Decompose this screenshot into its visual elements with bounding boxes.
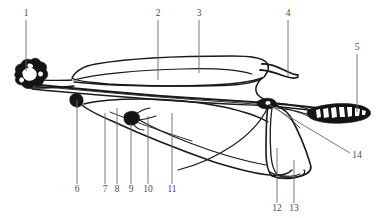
label-2: 2: [156, 8, 161, 18]
drawing-group: [15, 56, 371, 178]
label-12: 12: [272, 203, 282, 213]
label-7: 7: [103, 184, 108, 194]
anatomical-line-drawing: 1 2 3 4 5 6 7 8 9 10 11 12 13 14: [0, 0, 377, 218]
label-13: 13: [289, 203, 299, 213]
joint-to-skirt-sweep: [178, 107, 268, 170]
label-10: 10: [143, 184, 153, 194]
left-knob-inner-mark-4: [19, 78, 24, 83]
right-ovoid-marking-4: [339, 107, 345, 117]
lower-blade-outline: [82, 105, 292, 175]
label-4: 4: [286, 8, 291, 18]
left-joint-knot: [70, 94, 83, 108]
upper-blade-inner-fold: [74, 69, 252, 80]
label-3: 3: [197, 8, 202, 18]
label-14: 14: [352, 150, 362, 160]
lower-blade-inner-curve: [132, 116, 266, 165]
left-knob-inner-mark-3: [38, 72, 43, 77]
label-6: 6: [75, 184, 80, 194]
label-1: 1: [24, 8, 29, 18]
right-ovoid-marking-2: [323, 108, 329, 118]
label-8: 8: [115, 184, 120, 194]
figure-container: 1 2 3 4 5 6 7 8 9 10 11 12 13 14: [0, 0, 377, 218]
mid-joint-tail: [133, 124, 144, 130]
right-ovoid-marking-3: [331, 107, 337, 118]
mid-joint-knot: [124, 111, 140, 125]
label-9: 9: [129, 184, 134, 194]
label-5: 5: [355, 42, 360, 52]
label-11: 11: [167, 184, 176, 194]
